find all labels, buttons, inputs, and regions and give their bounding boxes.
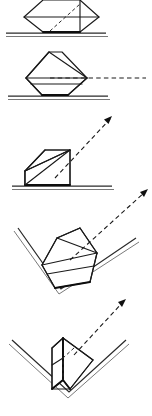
guide-arrow-head [118, 299, 126, 307]
panel-5-prism-upright-in-v-groove [9, 299, 129, 398]
panel-1-prism-on-flat-cropped [6, 0, 108, 37]
panel-2-ground-surface [8, 96, 110, 100]
prism-orientation-diagram: Prism orientation sequence [0, 0, 152, 416]
panel-4-prism-tilted-in-v-groove [14, 189, 148, 294]
guide-arrow-head [104, 116, 112, 124]
panel-4-prism-body [42, 228, 97, 288]
panel-3-ground-surface [12, 186, 114, 190]
panel-2-prism-body [26, 52, 87, 95]
guide-arrow-shaft-dashed [55, 119, 110, 178]
panel-1-prism-body [24, 0, 99, 32]
panel-2-prism-on-flat-with-guide [8, 52, 146, 100]
diagram-root: Prism orientation sequence [0, 0, 152, 416]
prism-right-facet [63, 338, 93, 389]
guide-arrow-shaft-dashed [74, 302, 123, 355]
panel-3-wedge-on-flat-with-arrow [12, 116, 114, 190]
panel-3-wedge-body [25, 150, 70, 185]
panel-4-guide-arrow [70, 189, 148, 260]
panel-1-ground-surface [6, 33, 108, 37]
prism-outline [24, 0, 99, 32]
